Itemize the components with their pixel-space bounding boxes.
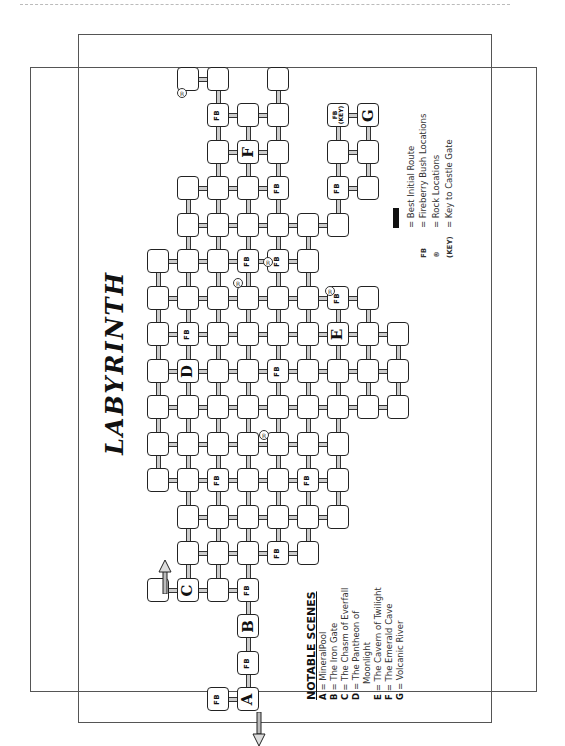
room [207,432,229,456]
passage [229,332,237,337]
passage [259,442,267,447]
passage [229,369,237,374]
room [147,468,169,492]
legend-item-rock: ®= Rock Locations [430,98,443,258]
room-label: FB [245,255,252,266]
room-fb: FB [207,468,229,492]
passage [186,237,191,249]
room [357,286,379,310]
passage [246,383,251,395]
room [237,359,259,383]
passage [216,346,221,359]
scene-item: G = Volcanic River [395,500,406,700]
passage [259,186,267,191]
passage [366,383,371,395]
passage [199,77,207,82]
room [297,432,319,456]
passage [259,332,267,337]
room [267,140,289,164]
passage [259,405,267,410]
passage [246,419,251,432]
passage [289,551,297,556]
room [207,395,229,419]
passage [186,565,191,578]
room [177,541,199,565]
passage [306,310,311,322]
passage [216,529,221,541]
passage [276,127,281,140]
room [207,249,229,273]
room-d: D [177,359,199,383]
passage [259,551,267,556]
room [207,67,229,91]
passage [349,332,357,337]
room [147,432,169,456]
room [147,395,169,419]
room [327,359,349,383]
passage [199,332,207,337]
room [147,286,169,310]
passage [156,310,161,322]
passage [306,273,311,286]
passage [186,492,191,505]
passage [246,237,251,249]
passage [246,200,251,213]
room-label: G [361,109,376,122]
passage [366,164,371,176]
passage [289,405,297,410]
room [237,213,259,237]
room [327,140,349,164]
passage [276,91,281,103]
passage [229,697,237,702]
room-label: FB [335,292,342,303]
passage [246,310,251,322]
room-fb: FB [267,359,289,383]
passage [276,529,281,541]
room [357,176,379,200]
room [237,103,259,127]
passage [259,369,267,374]
room-label: FB [275,255,282,266]
room-label: FB [215,109,222,120]
room-label: FB [215,693,222,704]
legend-list: = Best Initial RouteFB= Fireberry Bush L… [405,98,456,258]
room [387,359,409,383]
room-fb: FB [237,651,259,675]
passage [336,419,341,432]
passage [229,259,237,264]
room [267,395,289,419]
rock-icon: R [259,430,269,440]
passage [289,515,297,520]
room-a: A [237,687,259,711]
passage [289,296,297,301]
passage [289,223,297,228]
passage [366,127,371,140]
room [237,432,259,456]
passage [156,346,161,359]
room [357,395,379,419]
passage [199,515,207,520]
passage [246,164,251,176]
passage [229,478,237,483]
passage [306,346,311,359]
room-label: FB [305,474,312,485]
passage [199,405,207,410]
map-title: LABYRINTH [100,271,129,455]
room [297,249,319,273]
passage [319,405,327,410]
passage [319,478,327,483]
room-fbkey: FB(KEY) [327,103,349,127]
passage [246,346,251,359]
room [267,505,289,529]
passage [216,91,221,103]
passage [289,259,297,264]
passage [199,223,207,228]
passage [216,273,221,286]
best-route-legend-bar [393,208,399,228]
passage [319,369,327,374]
passage [336,164,341,176]
room [177,213,199,237]
room [237,541,259,565]
passage [216,456,221,468]
passage [306,237,311,249]
